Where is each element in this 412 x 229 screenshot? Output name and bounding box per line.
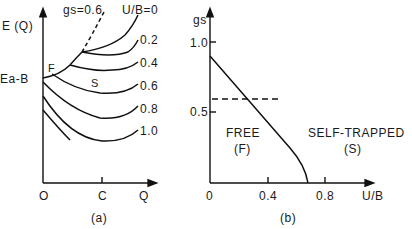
panel-a-caption: (a): [91, 212, 107, 224]
panel-b-y-axis-label: gs: [193, 14, 207, 26]
gs-dashed-label: gs=0.6: [63, 4, 102, 16]
panel-a-y-axis-label: E (Q): [2, 20, 33, 32]
region-free-label: FREE: [226, 127, 260, 139]
panel-a-x-tick-c: C: [98, 190, 107, 202]
curve-label-3: 0.6: [140, 80, 158, 92]
curve-label-4: 0.8: [140, 103, 158, 115]
panel-b-y-tick-05: 0.5: [190, 106, 208, 118]
panel-b-x-tick-08: 0.8: [316, 190, 334, 202]
curve-label-2: 0.4: [140, 57, 158, 69]
panel-b-y-tick-1: 1.0: [190, 37, 208, 49]
panel-b-axes: [210, 12, 370, 183]
curve-label-5: 1.0: [140, 125, 158, 137]
panel-b-x-tick-04: 0.4: [259, 190, 277, 202]
panel-b-x-axis-label: U/B: [362, 190, 384, 202]
panel-a-x-axis-label: Q: [139, 190, 149, 202]
curve-label-0: U/B=0: [122, 4, 158, 16]
curve-label-1: 0.2: [140, 34, 158, 46]
region-trapped-label: SELF-TRAPPED: [308, 127, 405, 139]
region-free-abbr: (F): [234, 143, 251, 155]
panel-b-curves: [210, 56, 308, 183]
panel-a-ea-b-label: Ea-B: [0, 73, 29, 85]
point-f-label: F: [48, 63, 55, 74]
point-s-label: S: [91, 78, 99, 89]
panel-a-origin-label: O: [39, 190, 49, 202]
region-trapped-abbr: (S): [344, 143, 362, 155]
panel-b-caption: (b): [280, 212, 296, 224]
panel-b-x-tick-0: 0: [206, 190, 213, 202]
